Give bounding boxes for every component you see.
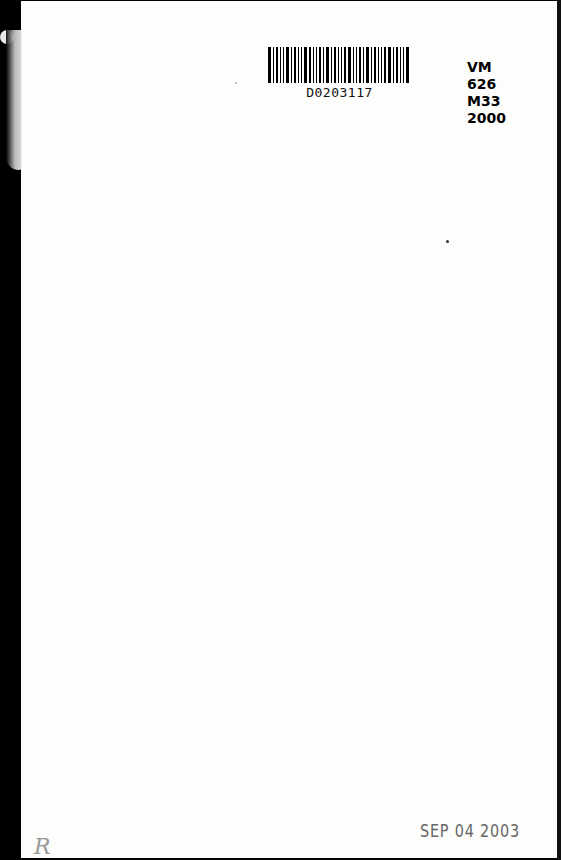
barcode-bar <box>304 47 307 83</box>
barcode-bar <box>344 47 346 83</box>
barcode-bar <box>334 47 336 83</box>
call-number-line-1: VM <box>467 59 506 76</box>
barcode-bar <box>381 47 382 83</box>
barcode-bar <box>393 47 394 83</box>
barcode-bar <box>319 47 321 83</box>
ink-speck <box>446 240 449 243</box>
date-due-stamp: SEP 04 2003 <box>420 820 520 841</box>
barcode-bar <box>396 47 398 83</box>
barcode-bar <box>341 47 342 83</box>
barcode-bar <box>348 47 351 83</box>
barcode-bar <box>316 47 317 83</box>
call-number-line-2: 626 <box>467 76 506 93</box>
barcode-bar <box>363 47 364 83</box>
handwritten-mark: R <box>34 834 51 859</box>
barcode-bar <box>356 47 357 83</box>
barcode-bar <box>291 47 292 83</box>
barcode-bar <box>403 47 404 83</box>
ink-speck <box>235 82 237 84</box>
barcode-bar <box>268 47 271 83</box>
barcode-bar <box>400 47 401 83</box>
barcode-bar <box>313 47 314 83</box>
barcode-bar <box>378 47 379 83</box>
barcode-bar <box>331 47 332 83</box>
barcode-bar <box>276 47 278 83</box>
barcode-bar <box>338 47 339 83</box>
barcode-bar <box>406 47 409 83</box>
barcode-bar <box>273 47 274 83</box>
barcode-bar <box>359 47 361 83</box>
barcode-number: D0203117 <box>268 85 411 100</box>
scanner-right-border <box>557 0 561 860</box>
torn-page-edge <box>6 30 22 170</box>
barcode-bar <box>280 47 281 83</box>
barcode-bar <box>388 47 391 83</box>
barcode-bar <box>301 47 302 83</box>
barcode-bar <box>323 47 324 83</box>
barcode-bar <box>283 47 284 83</box>
barcode-bar <box>353 47 354 83</box>
call-number-line-4: 2000 <box>467 110 506 127</box>
barcode-bar <box>366 47 369 83</box>
barcode-bar <box>384 47 386 83</box>
barcode-bar <box>374 47 376 83</box>
barcode-bar <box>371 47 372 83</box>
book-page <box>21 1 557 858</box>
barcode-bar <box>298 47 299 83</box>
barcode-bar <box>286 47 289 83</box>
call-number-line-3: M33 <box>467 93 506 110</box>
barcode-bar <box>294 47 296 83</box>
call-number-label: VM 626 M33 2000 <box>467 59 506 127</box>
barcode-bar <box>326 47 329 83</box>
library-barcode <box>268 47 411 83</box>
barcode-bar <box>309 47 311 83</box>
